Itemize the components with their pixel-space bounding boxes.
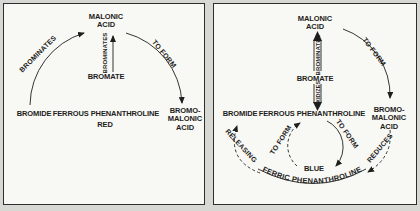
bromide-label: BROMIDE <box>17 110 52 118</box>
bz-reaction-figure: MALONIC ACID BROMINATES BROMINATES TO FO… <box>0 0 420 211</box>
bromomalonic-acid-label: BROMO- MALONIC ACID <box>372 106 406 131</box>
bromate-label: BROMATE <box>88 73 125 81</box>
red-state-label: RED <box>97 121 113 129</box>
ferrous-phenanthroline-label: FERROUS PHENANTHROLINE <box>53 110 160 118</box>
oxidizes-vertical-label: OXIDIZES <box>314 81 320 107</box>
ferrous-phenanthroline-label: FERROUS PHENANTHROLINE <box>259 110 366 118</box>
brominates-vertical-label: BROMINATES <box>102 33 109 74</box>
malonic-acid-label: MALONIC ACID <box>89 13 123 30</box>
bromomalonic-acid-label: BROMO- MALONIC ACID <box>168 107 202 132</box>
malonic-acid-label: MALONIC ACID <box>298 15 332 32</box>
bromide-label: BROMIDE <box>223 110 258 118</box>
panel-right-oscillating-cycle: FERRIC PHENANTHROLINE MALONIC ACID BROMI… <box>213 3 417 205</box>
brominates-vertical-label: BROMINATES <box>314 35 321 76</box>
panel-left-simple-cycle: MALONIC ACID BROMINATES BROMINATES TO FO… <box>3 3 205 205</box>
brominates-arc-arrow <box>30 33 84 105</box>
blue-state-label: BLUE <box>304 165 324 173</box>
